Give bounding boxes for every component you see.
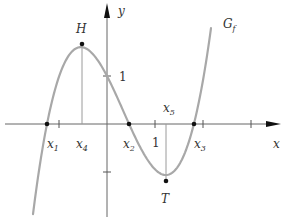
unit-label-y: 1 [119,70,127,84]
label-x3: x3 [194,137,206,153]
x-axis-label: x [273,137,280,151]
point-T [164,179,169,184]
label-T: T [161,192,170,206]
graph-curve [33,28,211,214]
y-axis-label: y [117,4,125,18]
point-x1 [45,122,50,127]
unit-label-x: 1 [152,136,160,150]
label-H: H [75,22,87,36]
point-x3 [192,122,197,127]
label-x2: x2 [123,137,135,153]
point-H [80,42,85,47]
label-x5: x5 [163,101,175,117]
function-graph: y x 1 1 H T Gf x1 x4 x2 x5 x3 [0,0,283,219]
point-x2 [127,122,132,127]
x-axis-arrow-icon [266,121,281,127]
graph-label: Gf [223,17,238,33]
label-x4: x4 [76,137,88,153]
label-x1: x1 [47,137,59,153]
y-axis-arrow-icon [104,3,110,18]
